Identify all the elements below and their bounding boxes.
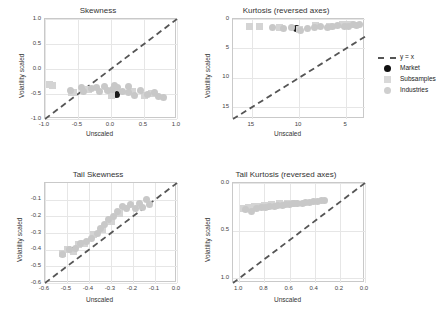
data-point-industry [67, 87, 74, 94]
data-point-industry [80, 88, 87, 95]
legend-item-market: Market [378, 63, 438, 74]
x-tick-label: -0.4 [79, 285, 97, 291]
panel-tail-skewness: Tail Skewness Unscaled Volatility scaled… [8, 170, 188, 314]
y-tick-label: -0.3 [20, 229, 41, 235]
legend-label: Market [400, 64, 420, 71]
y-tick-label: -0.4 [20, 245, 41, 251]
y-tick-label: 0.0 [208, 179, 229, 185]
legend: y = x Market Subsamples Industries [378, 52, 438, 96]
data-point-industry [137, 87, 144, 94]
y-tick-label: 10 [208, 73, 229, 79]
x-tick-label: 0.0 [101, 121, 119, 127]
plot-area-tail-kurtosis [232, 182, 364, 282]
y-tick-label: -0.2 [20, 212, 41, 218]
grid-line-horizontal [45, 283, 177, 284]
legend-label: y = x [400, 53, 414, 60]
x-tick-label: 0.2 [330, 285, 348, 291]
x-tick-label: 1.0 [167, 121, 185, 127]
x-tick-label: -1.0 [35, 121, 53, 127]
x-tick-label: -0.5 [57, 285, 75, 291]
y-tick-label: -1.0 [20, 115, 41, 121]
panel-title: Tail Skewness [8, 170, 188, 179]
x-tick-label: -0.3 [101, 285, 119, 291]
y-tick-label: 5 [208, 44, 229, 50]
y-tick-label: 1.0 [20, 15, 41, 21]
y-tick-label: -0.1 [20, 195, 41, 201]
x-tick-label: 5 [336, 121, 354, 127]
panel-skewness: Skewness Unscaled Volatility scaled -1.0… [8, 6, 188, 146]
reference-line-y-equals-x [45, 183, 175, 281]
data-point-subsample [49, 82, 56, 89]
y-tick-label: 1.0 [208, 274, 229, 280]
data-point-subsample [246, 23, 253, 30]
x-tick-label: 10 [289, 121, 307, 127]
y-tick-label: -0.5 [20, 90, 41, 96]
legend-label: Industries [400, 86, 428, 93]
y-tick-label: 0.5 [208, 226, 229, 232]
legend-item-industries: Industries [378, 85, 438, 96]
x-tick-label: 0.8 [254, 285, 272, 291]
grid-line-vertical [177, 19, 178, 119]
y-tick-label: -0.6 [20, 279, 41, 285]
y-tick-label: 0.0 [20, 65, 41, 71]
grid-line-vertical [365, 183, 366, 283]
grid-line-horizontal [45, 119, 177, 120]
x-tick-label: 0.5 [134, 121, 152, 127]
reference-line-y-equals-x [233, 19, 363, 117]
data-point-industry [269, 24, 276, 31]
data-point-subsample [256, 23, 263, 30]
x-tick-label: 0.0 [355, 285, 373, 291]
x-tick-label: -0.1 [145, 285, 163, 291]
legend-item-line: y = x [378, 52, 438, 63]
reference-line-y-equals-x [233, 183, 363, 281]
plot-area-tail-skewness [44, 182, 176, 282]
x-tick-label: -0.2 [123, 285, 141, 291]
legend-label: Subsamples [400, 75, 436, 82]
data-point-industry [88, 235, 95, 242]
data-point-industry [321, 197, 328, 204]
x-tick-label: 1.0 [229, 285, 247, 291]
y-tick-label: 0.5 [20, 40, 41, 46]
data-point-industry [144, 91, 151, 98]
figure-container: Skewness Unscaled Volatility scaled -1.0… [0, 0, 440, 318]
y-tick-label: 0 [208, 15, 229, 21]
plot-area-skewness [44, 18, 176, 118]
legend-item-subsamples: Subsamples [378, 74, 438, 85]
gray-square-icon [384, 76, 391, 83]
reference-line-y-equals-x [45, 19, 175, 117]
y-tick-label: 15 [208, 103, 229, 109]
black-circle-icon [384, 65, 391, 72]
dashed-line-icon [378, 57, 396, 59]
data-point-industry [304, 25, 311, 32]
data-point-industry [356, 21, 363, 28]
x-axis-label: Unscaled [86, 130, 113, 137]
x-tick-label: 0.4 [305, 285, 323, 291]
gray-circle-icon [384, 87, 391, 94]
panel-kurtosis: Kurtosis (reversed axes) Unscaled Volati… [196, 6, 376, 146]
y-axis-label: Volatility scaled [204, 218, 211, 262]
grid-line-vertical [177, 183, 178, 283]
x-tick-label: -0.5 [68, 121, 86, 127]
x-axis-label: Unscaled [274, 296, 301, 303]
y-axis-label: Volatility scaled [16, 218, 23, 262]
x-tick-label: 0.6 [280, 285, 298, 291]
x-tick-label: -0.6 [35, 285, 53, 291]
x-axis-label: Unscaled [274, 130, 301, 137]
x-tick-label: 15 [242, 121, 260, 127]
panel-tail-kurtosis: Tail Kurtosis (reversed axes) Unscaled V… [196, 170, 376, 314]
y-tick-label: -0.5 [20, 262, 41, 268]
plot-area-kurtosis [232, 18, 364, 118]
x-axis-label: Unscaled [86, 296, 113, 303]
x-tick-label: 0.0 [167, 285, 185, 291]
